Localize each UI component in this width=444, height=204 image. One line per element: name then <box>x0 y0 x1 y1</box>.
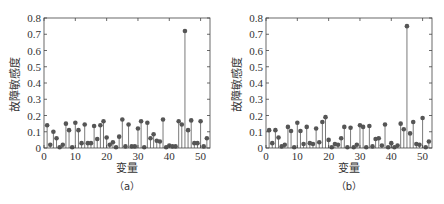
stem-marker <box>383 122 388 127</box>
stem-marker <box>355 142 360 147</box>
stem-marker <box>311 142 316 147</box>
stem-marker <box>289 129 294 134</box>
stem-marker <box>145 121 150 126</box>
stem-marker <box>395 143 400 148</box>
stem-marker <box>411 120 416 125</box>
stem-marker <box>282 142 287 147</box>
stem-marker <box>70 145 75 150</box>
plot-area: 00.10.20.30.40.50.60.70.801020304050 <box>27 12 210 162</box>
stem-marker <box>82 122 87 127</box>
stem-marker <box>292 145 297 150</box>
stem-chart-a: 故障敏感度 变量 （a） 00.10.20.30.40.50.60.70.801… <box>0 0 222 204</box>
stem-marker <box>117 134 122 139</box>
figure-caption: （a） <box>114 181 140 192</box>
stem-marker <box>317 140 322 145</box>
stem-marker <box>276 135 281 140</box>
stem-marker <box>367 124 372 129</box>
stem-marker <box>402 127 407 132</box>
stem-marker <box>79 141 84 146</box>
stem-marker <box>183 29 188 34</box>
stem-marker <box>139 119 144 124</box>
y-tick-label: 0.8 <box>249 12 263 24</box>
stem-marker <box>420 116 425 121</box>
stem-marker <box>314 126 319 131</box>
stem-marker <box>405 24 410 29</box>
stem-marker <box>98 123 103 128</box>
y-tick-label: 0.3 <box>27 93 41 105</box>
y-axis-title: 故障敏感度 <box>8 57 22 112</box>
y-tick-label: 0.6 <box>27 45 41 57</box>
x-tick-label: 20 <box>323 150 335 162</box>
stem-marker <box>298 129 303 134</box>
stem-marker <box>380 143 385 148</box>
stem-marker <box>339 136 344 141</box>
y-tick-label: 0.3 <box>249 93 263 105</box>
figure-caption: （b） <box>336 181 362 192</box>
stem-marker <box>342 125 347 130</box>
stem-marker <box>54 136 59 141</box>
y-tick-label: 0.5 <box>249 61 263 73</box>
stem-marker <box>95 137 100 142</box>
stem-marker <box>286 125 291 130</box>
stem-marker <box>361 125 366 130</box>
stem-marker <box>345 145 350 150</box>
stem-marker <box>195 141 200 146</box>
stem-marker <box>423 145 428 150</box>
x-tick-label: 50 <box>195 150 207 162</box>
x-tick-label: 10 <box>70 150 82 162</box>
y-tick-label: 0.7 <box>27 28 41 40</box>
stem-marker <box>126 122 131 127</box>
stem-marker <box>186 128 191 133</box>
stem-marker <box>48 142 53 147</box>
plot-area: 00.10.20.30.40.50.60.70.801020304050 <box>249 12 432 162</box>
y-tick-label: 0.6 <box>249 45 263 57</box>
y-tick-label: 0.4 <box>249 77 263 89</box>
x-tick-label: 30 <box>132 150 144 162</box>
y-tick-label: 0.5 <box>27 61 41 73</box>
stem-marker <box>161 117 166 122</box>
stem-marker <box>101 119 106 124</box>
stem-marker <box>114 145 119 150</box>
stem-marker <box>301 142 306 147</box>
x-axis-title: 变量 <box>116 161 138 175</box>
stem-marker <box>51 129 56 134</box>
stem-marker <box>336 142 341 147</box>
x-tick-label: 10 <box>292 150 304 162</box>
stem-marker <box>111 140 116 145</box>
stem-marker <box>270 141 275 146</box>
stem-marker <box>304 125 309 130</box>
y-tick-label: 0.1 <box>27 126 41 138</box>
stem-marker <box>273 128 278 133</box>
stem-marker <box>104 135 109 140</box>
y-tick-label: 0.4 <box>27 77 41 89</box>
x-tick-label: 30 <box>354 150 366 162</box>
stem-marker <box>151 132 156 137</box>
stem-marker <box>320 120 325 125</box>
stem-marker <box>408 131 413 136</box>
y-axis-title: 故障敏感度 <box>230 57 244 112</box>
x-tick-label: 40 <box>164 150 176 162</box>
stem-chart-b: 故障敏感度 变量 （b） 00.10.20.30.40.50.60.70.801… <box>222 0 444 204</box>
x-tick-label: 20 <box>101 150 113 162</box>
chart-panel-a: 故障敏感度 变量 （a） 00.10.20.30.40.50.60.70.801… <box>0 0 222 204</box>
y-tick-label: 0.2 <box>249 110 263 122</box>
stem-marker <box>92 124 97 129</box>
stem-marker <box>60 142 65 147</box>
stem-marker <box>295 121 300 126</box>
stem-marker <box>386 145 391 150</box>
y-tick-label: 0.2 <box>27 110 41 122</box>
stem-marker <box>120 117 125 122</box>
stem-marker <box>67 128 72 133</box>
stem-marker <box>45 123 50 128</box>
stem-marker <box>364 145 369 150</box>
stem-marker <box>389 141 394 146</box>
x-tick-label: 40 <box>386 150 398 162</box>
chart-panel-b: 故障敏感度 变量 （b） 00.10.20.30.40.50.60.70.801… <box>222 0 444 204</box>
stem-marker <box>198 119 203 124</box>
stem-marker <box>76 128 81 133</box>
stem-marker <box>89 141 94 146</box>
stem-marker <box>136 126 141 131</box>
stem-marker <box>64 121 69 126</box>
stem-marker <box>142 145 147 150</box>
stem-marker <box>427 139 432 144</box>
